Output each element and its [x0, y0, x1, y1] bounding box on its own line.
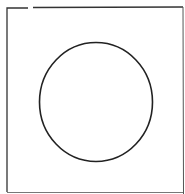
diagram-canvas	[0, 0, 185, 194]
circle-shape	[40, 43, 153, 162]
frame-right-edge	[183, 7, 184, 194]
square-frame	[7, 7, 184, 194]
frame-top-right-segment	[33, 7, 183, 8]
frame-top-left-segment	[7, 8, 28, 192]
